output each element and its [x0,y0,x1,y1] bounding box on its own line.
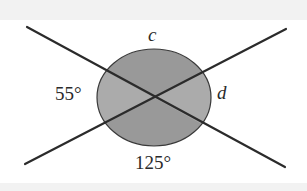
angle-label-55: 55° [55,84,82,103]
right-sector [154,0,307,191]
angle-label-d: d [217,83,227,102]
angle-label-c: c [148,25,156,44]
angle-label-125: 125° [135,153,171,172]
